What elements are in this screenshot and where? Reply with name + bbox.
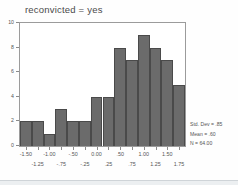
x-tick-mark [85,147,86,150]
x-tick-label: -1.50 [20,151,32,157]
x-axis-labels-major: -1.50-1.00-.500.00.501.001.50 [0,151,238,161]
x-tick-mark [132,147,133,150]
x-tick-mark [167,147,168,150]
histogram-bar [161,60,173,146]
y-tick-label: 0 [11,142,14,148]
x-tick-mark [108,147,109,150]
x-tick-label: -1.00 [43,151,55,157]
histogram-bar [91,97,103,146]
histogram-bar [173,85,185,147]
histogram-bar [44,134,56,146]
x-tick-mark [144,147,145,150]
x-tick-mark [38,147,39,150]
histogram-bar [126,60,138,146]
stat-n: N = 64.00 [190,139,236,149]
x-tick-label: -1.25 [32,161,44,167]
y-tick-label: 8 [11,44,14,50]
x-tick-mark [26,147,27,150]
histogram-bar [103,97,115,146]
x-tick-label: -.50 [68,151,77,157]
chart-title: reconvicted = yes [25,4,103,15]
x-tick-label: -.75 [57,161,66,167]
y-tick-label: 6 [11,68,14,74]
y-tick-label: 2 [11,117,14,123]
x-tick-label: 1.75 [174,161,185,167]
x-tick-label: .75 [128,161,136,167]
histogram-bar [114,48,126,146]
statistics-annotation: Std. Dev = .85 Mean = .60 N = 64.00 [190,120,236,149]
histogram-bar [32,121,44,146]
histogram-bar [150,48,162,146]
plot-area [20,23,185,146]
x-tick-label: 1.50 [162,151,173,157]
histogram-chart: reconvicted = yes 0246810 -1.50-1.00-.50… [0,0,238,185]
x-tick-label: 1.25 [150,161,161,167]
x-tick-mark [179,147,180,150]
x-tick-mark [61,147,62,150]
y-axis: 0246810 [0,18,19,151]
window-bottom-strip [0,180,238,185]
x-tick-label: -.25 [80,161,89,167]
x-tick-label: 1.00 [139,151,150,157]
histogram-bar [67,121,79,146]
x-tick-mark [97,147,98,150]
x-tick-label: .50 [116,151,124,157]
y-tick-label: 4 [11,93,14,99]
x-tick-mark [120,147,121,150]
x-tick-mark [73,147,74,150]
stat-mean: Mean = .60 [190,130,236,140]
histogram-bar [79,121,91,146]
histogram-bar [20,121,32,146]
x-tick-label: .25 [105,161,113,167]
stat-std-dev: Std. Dev = .85 [190,120,236,130]
y-tick-label: 10 [8,19,14,25]
histogram-bar [138,35,150,146]
x-tick-mark [49,147,50,150]
x-axis-labels-minor: -1.25-.75-.25.25.751.251.75 [0,161,238,171]
x-tick-mark [156,147,157,150]
histogram-bar [55,109,67,146]
plot-frame [19,22,186,147]
x-tick-label: 0.00 [91,151,102,157]
